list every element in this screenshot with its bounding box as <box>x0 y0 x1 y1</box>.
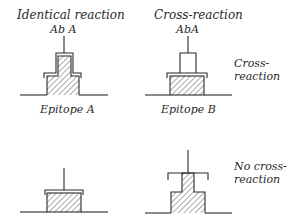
row-label-cross-reaction: Cross- reaction <box>234 57 280 83</box>
row-label-line: No cross- <box>234 160 287 173</box>
epitope-shape <box>47 193 81 212</box>
identical-reaction-title: Identical reaction <box>17 9 125 21</box>
antibody-a-empty-pocket <box>180 53 196 73</box>
row-label-line: reaction <box>234 70 280 83</box>
antibody-label-left: Ab A <box>50 24 76 35</box>
epitope-b-shape <box>170 76 204 95</box>
cross-reaction-title: Cross-reaction <box>154 9 243 21</box>
epitope-a-shape <box>47 56 79 95</box>
antibody-label-right: AbA <box>176 24 199 35</box>
identical-reaction-figure <box>20 36 108 95</box>
epitope-shape <box>171 173 205 213</box>
cross-reaction-figure <box>145 36 232 95</box>
row-label-no-cross-reaction: No cross- reaction <box>234 160 287 186</box>
row-label-line: Cross- <box>234 57 280 70</box>
no-cross-left-figure <box>20 168 108 212</box>
epitope-a-label: Epitope A <box>40 104 95 115</box>
antibody-epitope-diagram: Identical reaction Ab A Cross-reaction A… <box>0 0 290 216</box>
no-cross-right-figure <box>145 150 232 213</box>
epitope-b-label: Epitope B <box>161 104 216 115</box>
row-label-line: reaction <box>234 173 287 186</box>
